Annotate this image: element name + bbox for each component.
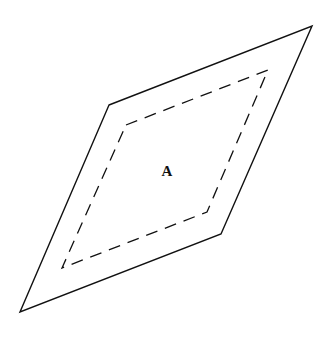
- region-label-a: A: [162, 163, 173, 179]
- diagram-canvas: A: [0, 0, 335, 339]
